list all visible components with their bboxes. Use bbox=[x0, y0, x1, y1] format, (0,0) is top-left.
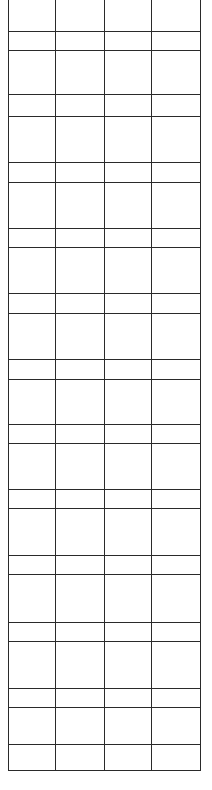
table-cell bbox=[56, 95, 104, 116]
table-cell bbox=[56, 745, 104, 770]
table-cell bbox=[56, 425, 104, 443]
table-cell bbox=[105, 95, 151, 116]
table-cell bbox=[105, 183, 151, 228]
table-cell bbox=[152, 117, 200, 162]
table-cell bbox=[152, 95, 200, 116]
table-cell bbox=[105, 425, 151, 443]
table-cell bbox=[9, 248, 55, 293]
table-cell bbox=[105, 380, 151, 424]
empty-table-grid bbox=[0, 0, 212, 790]
table-cell bbox=[105, 51, 151, 94]
table-cell bbox=[56, 623, 104, 641]
table-cell bbox=[56, 689, 104, 707]
table-cell bbox=[56, 248, 104, 293]
table-cell bbox=[56, 183, 104, 228]
table-cell bbox=[56, 708, 104, 744]
table-cell bbox=[105, 556, 151, 574]
table-cell bbox=[105, 1, 151, 31]
table-cell bbox=[152, 425, 200, 443]
table-cell bbox=[9, 117, 55, 162]
table-cell bbox=[105, 509, 151, 555]
table-cell bbox=[152, 360, 200, 379]
table-cell bbox=[9, 183, 55, 228]
table-cell bbox=[105, 314, 151, 359]
table-cell bbox=[9, 380, 55, 424]
table-cell bbox=[105, 294, 151, 313]
table-cell bbox=[56, 490, 104, 508]
table-cell bbox=[152, 623, 200, 641]
table-cell bbox=[105, 575, 151, 622]
table-cell bbox=[152, 745, 200, 770]
table-cell bbox=[9, 575, 55, 622]
table-cell bbox=[9, 163, 55, 182]
table-cell bbox=[56, 1, 104, 31]
table-cell bbox=[105, 745, 151, 770]
table-cell bbox=[105, 163, 151, 182]
table-cell bbox=[9, 745, 55, 770]
table-cell bbox=[56, 575, 104, 622]
table-cell bbox=[56, 556, 104, 574]
table-cell bbox=[152, 509, 200, 555]
table-cell bbox=[56, 314, 104, 359]
table-cell bbox=[152, 248, 200, 293]
table-cell bbox=[105, 490, 151, 508]
table-cell bbox=[152, 314, 200, 359]
table-cell bbox=[152, 642, 200, 688]
table-cell bbox=[9, 509, 55, 555]
table-cell bbox=[9, 51, 55, 94]
table-cell bbox=[105, 444, 151, 489]
table-cell bbox=[152, 575, 200, 622]
table-cell bbox=[105, 708, 151, 744]
table-cell bbox=[9, 444, 55, 489]
table-cell bbox=[56, 360, 104, 379]
table-cell bbox=[9, 294, 55, 313]
table-cell bbox=[152, 380, 200, 424]
table-cell bbox=[105, 248, 151, 293]
table-cell bbox=[9, 708, 55, 744]
table-cell bbox=[105, 32, 151, 50]
table-cell bbox=[9, 425, 55, 443]
table-cell bbox=[152, 1, 200, 31]
table-cell bbox=[152, 444, 200, 489]
table-cell bbox=[152, 51, 200, 94]
table-cell bbox=[9, 32, 55, 50]
table-cell bbox=[56, 444, 104, 489]
table-cell bbox=[56, 117, 104, 162]
table-cell bbox=[9, 314, 55, 359]
table-cell bbox=[9, 556, 55, 574]
table-cell bbox=[105, 689, 151, 707]
table-cell bbox=[152, 294, 200, 313]
table-cell bbox=[152, 708, 200, 744]
table-cell bbox=[56, 229, 104, 247]
table-cell bbox=[152, 183, 200, 228]
table-cell bbox=[105, 623, 151, 641]
table-cell bbox=[9, 1, 55, 31]
table-cell bbox=[56, 509, 104, 555]
table-cell bbox=[9, 360, 55, 379]
table-cell bbox=[56, 51, 104, 94]
table-cell bbox=[9, 229, 55, 247]
table-cell bbox=[56, 380, 104, 424]
table-cell bbox=[152, 689, 200, 707]
table-cell bbox=[105, 117, 151, 162]
table-cell bbox=[9, 623, 55, 641]
table-cell bbox=[56, 294, 104, 313]
table-cell bbox=[105, 642, 151, 688]
table-bottom-border bbox=[8, 770, 201, 771]
table-cell bbox=[56, 163, 104, 182]
table-cell bbox=[9, 689, 55, 707]
table-cell bbox=[9, 642, 55, 688]
table-cell bbox=[56, 642, 104, 688]
table-cell bbox=[9, 95, 55, 116]
table-cell bbox=[152, 163, 200, 182]
table-cell bbox=[152, 490, 200, 508]
table-cell bbox=[152, 556, 200, 574]
table-cell bbox=[105, 360, 151, 379]
table-cell bbox=[152, 229, 200, 247]
table-cell bbox=[9, 490, 55, 508]
table-cell bbox=[56, 32, 104, 50]
table-cell bbox=[152, 32, 200, 50]
table-cell bbox=[105, 229, 151, 247]
